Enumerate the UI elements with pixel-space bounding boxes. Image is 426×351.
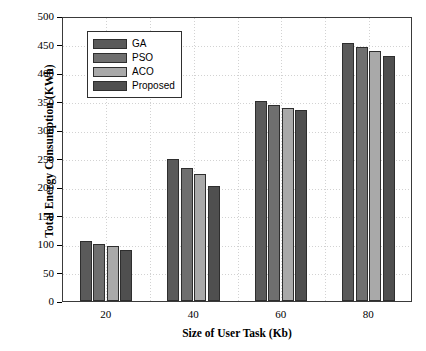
- bar-ga-80: [342, 43, 354, 301]
- gridline-vertical: [238, 18, 239, 301]
- bar-chart-figure: Total Energy Consumption (KWh) Size of U…: [0, 0, 426, 351]
- x-tick-label: 40: [163, 308, 223, 320]
- bar-ga-40: [167, 159, 179, 302]
- legend-label-aco: ACO: [132, 67, 154, 77]
- y-tick-label: 150: [12, 210, 54, 222]
- x-axis-title: Size of User Task (Kb): [62, 327, 412, 339]
- bar-proposed-40: [208, 186, 220, 301]
- legend-swatch-proposed: [93, 81, 127, 91]
- plot-area: GA PSO ACO Proposed: [62, 17, 412, 302]
- y-tick-label: 0: [12, 295, 54, 307]
- bar-aco-40: [194, 174, 206, 301]
- x-tick-label: 80: [338, 308, 398, 320]
- y-tick-label: 300: [12, 124, 54, 136]
- legend-swatch-pso: [93, 53, 127, 63]
- bar-proposed-80: [383, 56, 395, 301]
- bar-pso-60: [268, 105, 280, 301]
- y-tick-label: 450: [12, 39, 54, 51]
- gridline-vertical: [325, 18, 326, 301]
- chart-legend: GA PSO ACO Proposed: [87, 31, 182, 98]
- bar-aco-60: [282, 108, 294, 301]
- bar-aco-20: [107, 246, 119, 301]
- x-tick-label: 20: [76, 308, 136, 320]
- bar-aco-80: [369, 51, 381, 301]
- legend-item: PSO: [93, 51, 175, 64]
- legend-item: Proposed: [93, 79, 175, 92]
- bar-ga-60: [255, 101, 267, 301]
- legend-item: GA: [93, 37, 175, 50]
- legend-swatch-ga: [93, 39, 127, 49]
- y-tick-label: 250: [12, 153, 54, 165]
- x-tick-label: 60: [251, 308, 311, 320]
- bar-pso-80: [356, 47, 368, 301]
- y-tick-label: 200: [12, 181, 54, 193]
- y-tick-label: 100: [12, 238, 54, 250]
- y-tick-label: 50: [12, 267, 54, 279]
- y-tick-label: 400: [12, 67, 54, 79]
- y-tick-label: 350: [12, 96, 54, 108]
- legend-swatch-aco: [93, 67, 127, 77]
- legend-item: ACO: [93, 65, 175, 78]
- bar-proposed-20: [120, 250, 132, 301]
- bar-proposed-60: [295, 110, 307, 301]
- legend-label-proposed: Proposed: [132, 81, 175, 91]
- legend-label-ga: GA: [132, 39, 146, 49]
- y-tick-label: 500: [12, 10, 54, 22]
- legend-label-pso: PSO: [132, 53, 153, 63]
- bar-ga-20: [80, 241, 92, 301]
- bar-pso-40: [181, 168, 193, 301]
- bar-pso-20: [93, 244, 105, 301]
